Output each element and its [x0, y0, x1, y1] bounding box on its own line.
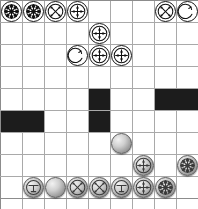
piece-white-plus-arrows[interactable]	[67, 1, 88, 22]
grid-line-horizontal	[0, 132, 198, 133]
piece-white-plus-arrows[interactable]	[89, 23, 110, 44]
grid-line-vertical	[132, 0, 133, 209]
piece-white-burst-wheel[interactable]	[1, 1, 22, 22]
piece-gray-plus-arrows[interactable]	[133, 155, 154, 176]
piece-white-plus-arrows[interactable]	[89, 45, 110, 66]
game-board[interactable]	[0, 0, 198, 209]
piece-gray-burst-wheel[interactable]	[155, 177, 176, 198]
piece-white-x-cross-arrows[interactable]	[45, 1, 66, 22]
piece-white-burst-wheel[interactable]	[23, 1, 44, 22]
grid-line-vertical	[66, 0, 67, 209]
piece-gray-t-mark[interactable]	[23, 177, 44, 198]
piece-white-hook-circle[interactable]	[67, 45, 88, 66]
piece-white-x-cross-arrows[interactable]	[155, 1, 176, 22]
blocked-cell	[89, 111, 110, 132]
piece-white-plus-arrows[interactable]	[111, 45, 132, 66]
blocked-cell	[89, 89, 110, 110]
piece-gray-t-mark[interactable]	[111, 177, 132, 198]
grid-line-horizontal	[0, 66, 198, 67]
grid-line-horizontal	[0, 198, 198, 199]
piece-gray-plain-sphere[interactable]	[45, 177, 66, 198]
grid-line-vertical	[44, 0, 45, 209]
piece-gray-burst-wheel[interactable]	[177, 155, 198, 176]
piece-gray-plus-arrows[interactable]	[133, 177, 154, 198]
blocked-cell	[1, 111, 44, 132]
grid-line-vertical	[110, 0, 111, 209]
grid-line-vertical	[22, 0, 23, 209]
piece-gray-x-cross-arrows[interactable]	[67, 177, 88, 198]
grid-line-vertical	[0, 0, 1, 209]
grid-line-horizontal	[0, 154, 198, 155]
piece-white-hook-circle[interactable]	[177, 1, 198, 22]
piece-gray-x-cross-arrows[interactable]	[89, 177, 110, 198]
blocked-cell	[155, 89, 198, 110]
piece-gray-plain-sphere[interactable]	[111, 133, 132, 154]
